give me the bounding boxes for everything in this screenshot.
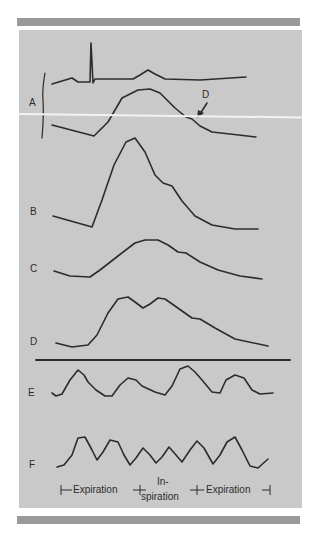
trace-b xyxy=(53,138,258,229)
bottom-rule xyxy=(17,516,300,524)
label-d: D xyxy=(30,336,37,347)
axis-inspiration-top: In- xyxy=(157,476,169,487)
trace-e xyxy=(52,366,273,396)
axis-expiration-left: Expiration xyxy=(73,484,117,495)
waveform-traces xyxy=(0,0,318,533)
label-b: B xyxy=(30,206,37,217)
trace-f xyxy=(57,437,268,468)
trace-d xyxy=(56,297,268,347)
axis-expiration-right: Expiration xyxy=(206,484,250,495)
label-e: E xyxy=(28,387,35,398)
brace-a xyxy=(42,73,45,138)
label-c: C xyxy=(30,263,37,274)
label-a: A xyxy=(29,97,36,108)
label-arrow-d: D xyxy=(202,89,209,100)
axis-inspiration-bottom: spiration xyxy=(141,491,179,502)
ecg-trace xyxy=(52,43,246,84)
caption-cutoff xyxy=(17,528,300,533)
label-f: F xyxy=(29,459,35,470)
trace-c xyxy=(54,240,262,279)
